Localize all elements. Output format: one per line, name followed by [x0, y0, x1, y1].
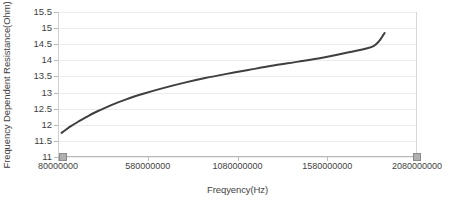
chart-container: Frequency Dependent Resistance(Ohm) 1111…: [0, 0, 454, 204]
y-tick-label: 14.5: [16, 39, 52, 49]
y-tick-label: 15.5: [16, 7, 52, 17]
y-axis-title: Frequency Dependent Resistance(Ohm): [0, 0, 14, 170]
x-tick-label: 1080000000: [212, 161, 262, 171]
axis-handle-left[interactable]: [59, 153, 67, 161]
series-line-path: [62, 33, 385, 133]
x-axis-title: Freqyency(Hz): [58, 184, 417, 195]
x-axis-tick-labels: 8000000058000000010800000001580000000208…: [0, 161, 454, 175]
y-tick-label: 12: [16, 120, 52, 130]
y-tick-label: 11.5: [16, 136, 52, 146]
y-tick-label: 13: [16, 88, 52, 98]
y-tick-label: 14: [16, 55, 52, 65]
y-tick-label: 15: [16, 23, 52, 33]
series-line-chart: [58, 12, 417, 157]
x-tick-label: 1580000000: [302, 161, 352, 171]
y-tick-label: 12.5: [16, 104, 52, 114]
axis-handle-right[interactable]: [413, 153, 421, 161]
x-tick-label: 80000000: [38, 161, 78, 171]
y-tick-label: 13.5: [16, 71, 52, 81]
x-tick-label: 2080000000: [392, 161, 442, 171]
x-tick-label: 580000000: [125, 161, 170, 171]
plot-area: [58, 12, 417, 157]
